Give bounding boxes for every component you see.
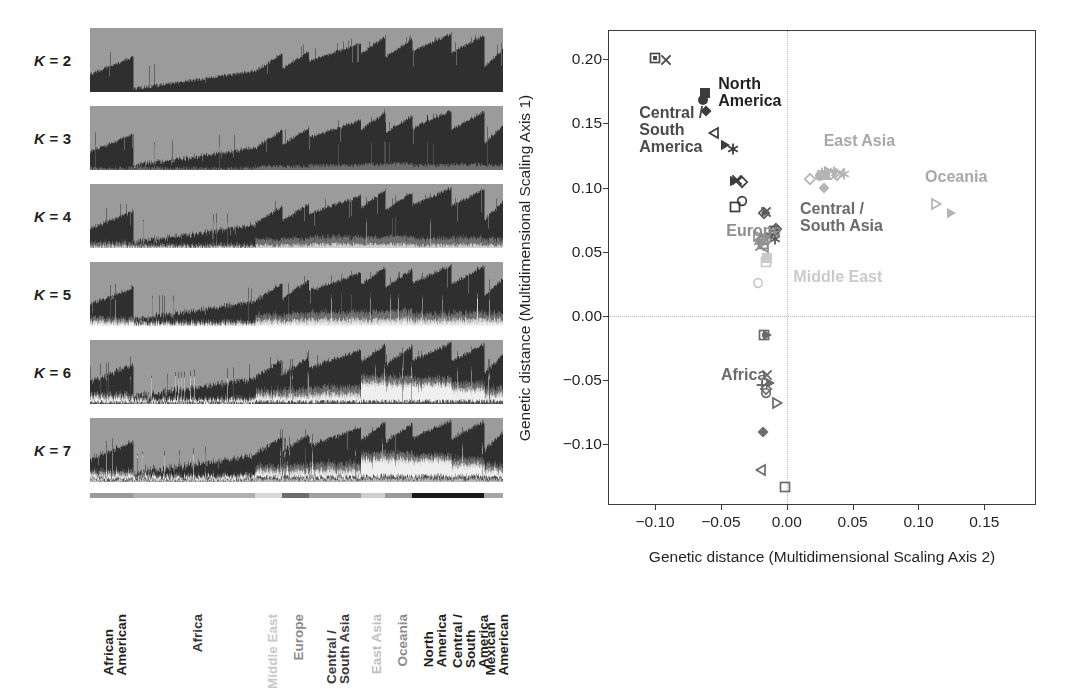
k-label-4: K = 4 [34,208,90,225]
x-tick-mark [721,504,722,510]
region-annotation-line: North [718,75,781,92]
scatter-point-north-america [734,174,750,190]
x-tick-mark [655,504,656,510]
y-tick-mark [603,444,609,445]
y-tick-mark [603,316,609,317]
region-annotation-line: South Asia [800,217,883,234]
scatter-point-africa [759,327,775,343]
region-annotation-central: Central /SouthAmerica [639,104,703,155]
zero-line-vertical [787,31,788,504]
pop-label-1: Africa [191,614,204,652]
region-annotation-oceania: Oceania [925,168,987,185]
pop-bar-segment [361,493,386,498]
scatter-point-north-america [727,199,743,215]
x-tick-label: −0.10 [635,513,674,531]
plot-area: 0.200.150.100.050.00−0.05−0.10−0.10−0.05… [608,30,1036,505]
x-tick-label: −0.05 [701,513,740,531]
pop-label-line: North [422,614,435,667]
region-annotation-line: America [718,92,781,109]
y-tick-label: 0.15 [572,114,602,132]
region-annotation-line: Middle East [793,268,882,285]
y-tick-mark [603,252,609,253]
y-tick-mark [603,59,609,60]
population-labels: AfricanAmericanAfricaMiddle EastEuropeCe… [90,500,503,617]
pop-label-line: Middle East [266,614,279,689]
x-axis-label: Genetic distance (Multidimensional Scali… [649,548,995,566]
pop-label-line: Oceania [396,614,409,667]
pop-bar-segment [385,493,412,498]
k-label-3: K = 3 [34,130,90,147]
region-annotation-line: Oceania [925,168,987,185]
y-tick-label: −0.10 [563,435,602,453]
structure-band-k5 [90,262,503,326]
pop-bar-segment [309,493,361,498]
scatter-point-central-south-america [658,52,674,68]
pop-label-line: Africa [191,614,204,652]
y-tick-label: 0.10 [572,179,602,197]
pop-bar-segment [412,493,451,498]
region-annotation-line: Central / [800,200,883,217]
region-annotation-middle-east: Middle East [793,268,882,285]
pop-label-3: Europe [292,614,305,661]
y-tick-label: 0.00 [572,307,602,325]
region-annotation-line: South [639,121,703,138]
pop-label-line: South Asia [338,614,351,684]
y-axis-label: Genetic distance (Multidimensional Scali… [516,95,534,441]
pop-label-line: Europe [292,614,305,661]
scatter-point-middle-east [750,275,766,291]
x-tick-label: 0.10 [903,513,933,531]
x-tick-mark [984,504,985,510]
structure-band-k3 [90,106,503,170]
region-annotation-line: America [639,138,703,155]
pop-label-2: Middle East [266,614,279,689]
pop-label-line: America [435,614,448,667]
scatter-point-africa [753,462,769,478]
region-annotation-line: Europe [726,222,781,239]
scatter-point-africa [777,479,793,495]
region-annotation-east-asia: East Asia [824,132,895,149]
scatter-point-east-asia [836,166,852,182]
pop-label-line: Central / [451,614,464,668]
scatter-point-central-south-asia [758,204,774,220]
scatter-point-north-america [725,141,741,157]
zero-line-horizontal [609,316,1035,317]
pop-label-4: Central /South Asia [325,614,351,684]
scatter-point-oceania [943,205,959,221]
x-tick-mark [787,504,788,510]
region-annotation-north: NorthAmerica [718,75,781,109]
population-colour-bar [90,493,503,498]
pop-label-line: African [102,614,115,676]
x-tick-label: 0.15 [969,513,999,531]
y-tick-label: 0.20 [572,50,602,68]
pop-label-line: South [464,614,477,668]
pop-label-0: AfricanAmerican [102,614,128,676]
pop-bar-segment [282,493,309,498]
x-tick-mark [918,504,919,510]
y-tick-mark [603,380,609,381]
region-annotation-line: East Asia [824,132,895,149]
region-annotation-europe: Europe [726,222,781,239]
pop-label-5: East Asia [370,614,383,674]
structure-band-k6 [90,340,503,404]
pop-label-7: NorthAmerica [422,614,448,667]
pop-bar-segment [90,493,133,498]
mds-scatter-panel: Genetic distance (Multidimensional Scali… [500,0,1077,617]
pop-label-6: Oceania [396,614,409,667]
region-annotation-line: Africa [721,366,766,383]
pop-label-line: Mexican [484,614,497,676]
y-tick-mark [603,123,609,124]
pop-label-line: Central / [325,614,338,684]
scatter-point-africa [769,395,785,411]
y-tick-mark [603,188,609,189]
region-annotation-line: Central / [639,104,703,121]
scatter-point-oceania [928,196,944,212]
pop-label-line: American [497,614,510,676]
structure-band-k7 [90,418,503,482]
pop-bar-segment [451,493,484,498]
pop-label-line: American [115,614,128,676]
pop-label-9: MexicanAmerican [484,614,510,676]
scatter-point-east-asia [816,180,832,196]
y-tick-label: −0.05 [563,371,602,389]
scatter-point-africa [755,424,771,440]
